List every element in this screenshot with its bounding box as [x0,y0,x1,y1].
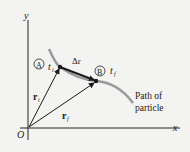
vector-delta-r [60,67,94,80]
point-a-marker: A [36,61,42,70]
time-final-sub: f [114,71,117,77]
r-initial-sub: i [38,97,40,103]
r-final-sub: f [67,116,70,122]
y-axis-label: y [23,10,29,21]
path-label-line2: particle [135,103,163,113]
origin-label: O [17,129,24,140]
time-initial-label: t [48,61,51,72]
path-label-line1: Path of [135,91,163,101]
diagram-canvas: y x O A t i B t f Δr r i r f Path of par… [0,0,190,152]
point-b-marker: B [97,68,102,77]
point-a-dot [58,65,62,69]
time-final-label: t [110,65,113,76]
particle-path [49,49,133,103]
delta-r-label: Δr [72,56,81,66]
point-b-dot [94,79,98,83]
x-axis-label: x [172,122,178,133]
time-initial-sub: i [52,67,54,73]
displacement-diagram: y x O A t i B t f Δr r i r f Path of par… [0,0,190,152]
